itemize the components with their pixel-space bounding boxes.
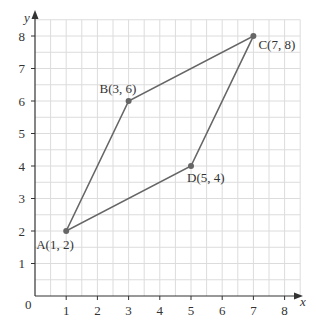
- x-tick-label: 8: [281, 303, 288, 318]
- coordinate-plot: x y 0 1234567812345678 A(1, 2)B(3, 6)C(7…: [0, 0, 316, 335]
- y-tick-label: 7: [19, 61, 26, 76]
- point-label-d: D(5, 4): [187, 170, 225, 185]
- y-tick-label: 1: [19, 256, 26, 271]
- y-axis-label: y: [22, 10, 30, 25]
- x-tick-label: 7: [250, 303, 257, 318]
- x-tick-label: 1: [63, 303, 70, 318]
- y-tick-label: 2: [19, 224, 26, 239]
- ticks: 1234567812345678: [19, 29, 288, 319]
- axes: x y 0: [22, 10, 306, 312]
- points: A(1, 2)B(3, 6)C(7, 8)D(5, 4): [36, 33, 295, 252]
- origin-label: 0: [25, 297, 32, 312]
- point-a: [63, 228, 69, 234]
- y-tick-label: 8: [19, 29, 26, 44]
- x-tick-label: 2: [94, 303, 101, 318]
- point-c: [250, 33, 256, 39]
- x-tick-label: 5: [188, 303, 195, 318]
- x-tick-label: 4: [157, 303, 164, 318]
- point-label-b: B(3, 6): [100, 81, 137, 96]
- point-d: [188, 163, 194, 169]
- x-axis-label: x: [299, 294, 306, 309]
- y-tick-label: 4: [19, 159, 26, 174]
- x-tick-label: 3: [125, 303, 132, 318]
- point-label-c: C(7, 8): [258, 37, 295, 52]
- y-tick-label: 5: [19, 126, 26, 141]
- grid: [35, 20, 300, 296]
- y-axis-arrow-icon: [32, 10, 39, 19]
- y-tick-label: 6: [19, 94, 26, 109]
- x-tick-label: 6: [219, 303, 226, 318]
- point-b: [126, 98, 132, 104]
- point-label-a: A(1, 2): [36, 237, 74, 252]
- y-tick-label: 3: [19, 191, 26, 206]
